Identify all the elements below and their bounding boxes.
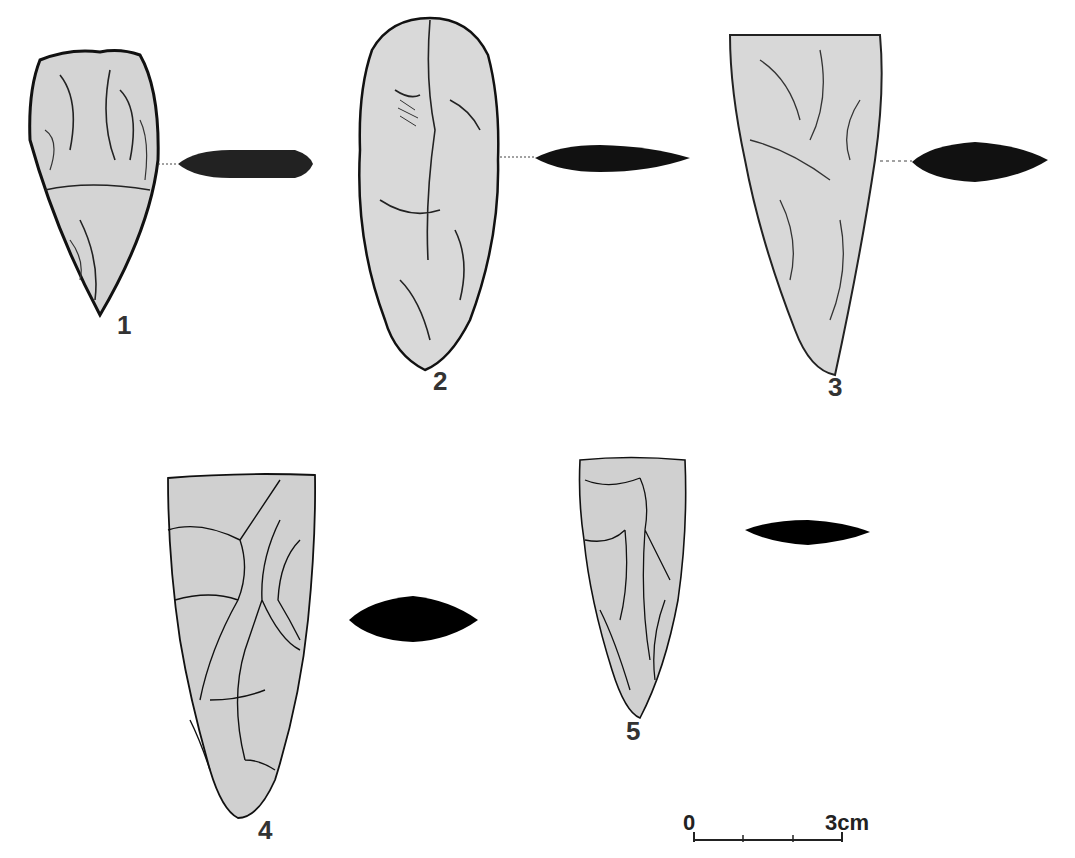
artifact-2-cross-section <box>535 145 690 172</box>
scale-start-label: 0 <box>683 810 695 836</box>
artifact-4-cross-section <box>349 596 478 642</box>
artifact-5-drawing <box>580 458 686 719</box>
artifact-1-label: 1 <box>117 310 131 341</box>
artifact-plate <box>0 0 1075 858</box>
artifact-2-drawing <box>359 18 498 370</box>
artifact-4-label: 4 <box>258 815 272 846</box>
artifact-3-cross-section <box>912 142 1048 182</box>
artifact-4-drawing <box>168 474 315 818</box>
artifact-3-label: 3 <box>828 372 842 403</box>
artifact-1-drawing <box>30 51 158 315</box>
scale-end-label: 3cm <box>825 810 869 836</box>
scale-bar <box>694 832 842 842</box>
artifact-5-label: 5 <box>626 716 640 747</box>
artifact-2-label: 2 <box>433 366 447 397</box>
artifact-3-drawing <box>730 35 882 375</box>
artifact-5-cross-section <box>745 520 870 545</box>
artifact-1-cross-section <box>178 150 313 178</box>
